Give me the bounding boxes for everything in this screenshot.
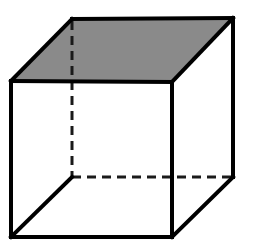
edge-front-top <box>11 81 172 82</box>
edge-back-top <box>72 18 233 19</box>
figure-canvas: Cube in oblique projection A three-dimen… <box>0 0 253 251</box>
cube-diagram: Cube in oblique projection A three-dimen… <box>0 0 253 251</box>
